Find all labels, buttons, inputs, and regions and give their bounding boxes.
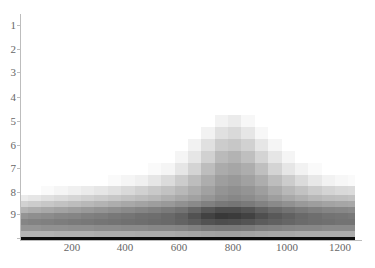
heatmap-cell: [322, 139, 336, 151]
heatmap-cell: [215, 163, 229, 175]
heatmap-cell: [135, 139, 149, 151]
heatmap-cell: [241, 115, 255, 127]
heatmap-cell: [148, 163, 162, 175]
heatmap-cell: [348, 163, 355, 175]
heatmap-cell: [161, 127, 175, 139]
heatmap-cell: [135, 151, 149, 163]
heatmap-cell: [54, 175, 68, 187]
y-tick-label: 6: [6, 139, 16, 151]
x-tick-label: 600: [171, 241, 188, 253]
y-tick: [17, 72, 20, 73]
heatmap-cell: [255, 127, 269, 139]
y-tick-label: 8: [6, 186, 16, 198]
heatmap-cell: [295, 163, 309, 175]
heatmap-cell: [161, 139, 175, 151]
heatmap-cell: [175, 163, 189, 175]
heatmap-cell: [188, 139, 202, 151]
heatmap-cell: [188, 127, 202, 139]
heatmap-cell: [108, 139, 122, 151]
heatmap-cell: [175, 115, 189, 127]
heatmap-cell: [255, 163, 269, 175]
heatmap-cell: [228, 163, 242, 175]
heatmap-cell: [228, 115, 242, 127]
heatmap-cell: [282, 151, 296, 163]
heatmap-cell: [108, 115, 122, 127]
heatmap-cell: [121, 139, 135, 151]
heatmap-cell: [175, 175, 189, 187]
heatmap-cell: [94, 139, 108, 151]
heatmap-cell: [188, 175, 202, 187]
heatmap-cell: [295, 139, 309, 151]
heatmap-cell: [175, 151, 189, 163]
y-tick: [17, 238, 20, 239]
heatmap-cell: [348, 175, 355, 187]
heatmap-cell: [54, 115, 68, 127]
heatmap-cell: [268, 151, 282, 163]
heatmap-cell: [41, 163, 55, 175]
heatmap-cell: [41, 175, 55, 187]
heatmap-cell: [282, 163, 296, 175]
y-axis-line: [20, 14, 21, 240]
x-tick-label: 400: [117, 241, 134, 253]
heatmap-cell: [41, 151, 55, 163]
heatmap-cell: [121, 175, 135, 187]
heatmap-cell: [228, 139, 242, 151]
y-tick-label: 2: [6, 43, 16, 55]
x-tick-label: 800: [225, 241, 242, 253]
heatmap-cell: [148, 127, 162, 139]
heatmap-chart: 1 2 3 4 5 6 7 8 9 200 400 600 800 1000 1…: [0, 0, 375, 268]
heatmap-cell: [308, 115, 322, 127]
heatmap-cell: [282, 175, 296, 187]
heatmap-cell: [215, 139, 229, 151]
heatmap-cell: [28, 115, 42, 127]
heatmap-cell: [28, 151, 42, 163]
heatmap-cell: [28, 175, 42, 187]
heatmap-cell: [308, 175, 322, 187]
heatmap-cell: [241, 151, 255, 163]
heatmap-cell: [241, 163, 255, 175]
heatmap-cell: [108, 163, 122, 175]
heatmap-cell: [68, 175, 82, 187]
heatmap-cell: [255, 115, 269, 127]
heatmap-cell: [81, 127, 95, 139]
heatmap-cell: [335, 175, 349, 187]
heatmap-cell: [41, 139, 55, 151]
heatmap-cell: [54, 127, 68, 139]
heatmap-cell: [68, 115, 82, 127]
heatmap-cell: [68, 163, 82, 175]
y-tick-label: 7: [6, 162, 16, 174]
heatmap-cell: [94, 127, 108, 139]
heatmap-cell: [81, 139, 95, 151]
heatmap-cell: [54, 151, 68, 163]
heatmap-cell: [335, 151, 349, 163]
heatmap-cell: [68, 127, 82, 139]
heatmap-cell: [148, 115, 162, 127]
heatmap-cell: [282, 139, 296, 151]
heatmap-cell: [295, 151, 309, 163]
x-tick-label: 1200: [329, 241, 351, 253]
y-tick: [17, 168, 20, 169]
heatmap-cell: [94, 115, 108, 127]
y-tick: [17, 192, 20, 193]
heatmap-cell: [215, 127, 229, 139]
heatmap-cell: [335, 127, 349, 139]
heatmap-cell: [148, 139, 162, 151]
heatmap-cell: [282, 127, 296, 139]
heatmap-cell: [228, 151, 242, 163]
heatmap-cell: [201, 163, 215, 175]
heatmap-cell: [148, 175, 162, 187]
heatmap-cell: [228, 175, 242, 187]
heatmap-cell: [121, 151, 135, 163]
heatmap-cell: [28, 163, 42, 175]
y-tick-label: 3: [6, 66, 16, 78]
heatmap-cell: [108, 151, 122, 163]
heatmap-cell: [308, 127, 322, 139]
heatmap-cell: [81, 163, 95, 175]
heatmap-cell: [161, 151, 175, 163]
heatmap-cell: [28, 127, 42, 139]
heatmap-cell: [94, 163, 108, 175]
heatmap-cell: [188, 151, 202, 163]
heatmap-cell: [335, 115, 349, 127]
heatmap-cell: [255, 175, 269, 187]
y-tick: [17, 214, 20, 215]
